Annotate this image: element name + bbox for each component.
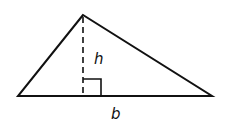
- triangle-diagram: h b: [0, 0, 227, 124]
- right-angle-marker: [83, 79, 101, 96]
- triangle: [18, 15, 212, 96]
- height-label: h: [94, 50, 104, 68]
- base-label: b: [111, 105, 121, 123]
